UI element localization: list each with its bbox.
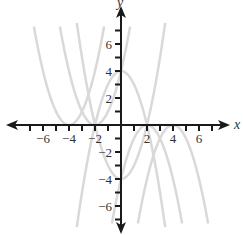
x-tick-label: 4 (170, 131, 177, 146)
x-tick-label: 6 (196, 131, 203, 146)
x-axis-label: x (233, 117, 241, 132)
y-tick-label: 6 (106, 37, 113, 52)
coordinate-plane: −6−4−2246642−2−4−6 x y (0, 0, 243, 235)
y-tick-label: 4 (106, 64, 113, 79)
y-tick-label: 2 (106, 91, 113, 106)
x-tick-label: −6 (36, 131, 50, 146)
y-tick-label: −6 (98, 199, 112, 214)
x-tick-label: 2 (144, 131, 151, 146)
axes (6, 6, 230, 234)
y-tick-label: −2 (98, 145, 112, 160)
x-tick-label: −4 (62, 131, 76, 146)
y-tick-label: −4 (98, 172, 112, 187)
y-axis-label: y (115, 0, 124, 10)
